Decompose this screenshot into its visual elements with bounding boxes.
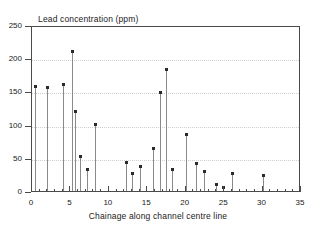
data-point: [126, 163, 127, 191]
x-axis-minor-tick: [123, 189, 124, 192]
chart-title: Lead concentration (ppm): [38, 14, 138, 24]
data-point-marker: [71, 50, 74, 53]
x-axis-tick-label: 20: [175, 198, 195, 207]
x-axis-minor-tick: [131, 189, 132, 192]
y-axis-tick: [25, 59, 31, 60]
data-point: [166, 70, 167, 192]
x-axis-tick-label: 30: [252, 198, 272, 207]
plot-area: [31, 26, 300, 192]
data-point-marker: [125, 161, 128, 164]
data-point: [172, 170, 173, 191]
y-axis-tick: [25, 26, 31, 27]
x-axis-minor-tick: [200, 189, 201, 192]
x-axis-minor-tick: [192, 189, 193, 192]
data-point: [186, 135, 187, 191]
data-point: [132, 174, 133, 191]
data-point: [196, 164, 197, 191]
data-point: [63, 85, 64, 191]
data-point-marker: [62, 83, 65, 86]
y-axis-tick: [25, 126, 31, 127]
data-point-marker: [79, 155, 82, 158]
data-point: [47, 88, 48, 191]
x-axis-minor-tick: [46, 189, 47, 192]
data-point-marker: [185, 133, 188, 136]
data-point: [232, 174, 233, 191]
y-axis-tick-label: 250: [9, 22, 22, 30]
data-point-marker: [74, 110, 77, 113]
data-point-marker: [46, 86, 49, 89]
data-point-marker: [262, 174, 265, 177]
x-axis-minor-tick: [246, 189, 247, 192]
x-axis-tick: [300, 186, 301, 192]
x-axis-minor-tick: [162, 189, 163, 192]
x-axis-tick-label: 10: [98, 198, 118, 207]
x-axis-tick: [146, 186, 147, 192]
data-point-marker: [195, 162, 198, 165]
data-point: [153, 149, 154, 191]
y-axis-tick: [25, 192, 31, 193]
data-point: [75, 112, 76, 191]
y-axis-tick-label: 100: [9, 122, 22, 130]
x-axis-tick: [69, 186, 70, 192]
x-axis-minor-tick: [139, 189, 140, 192]
x-axis-minor-tick: [100, 189, 101, 192]
data-point: [35, 87, 36, 191]
x-axis-minor-tick: [215, 189, 216, 192]
data-point: [140, 167, 141, 191]
y-axis-tick-label: 50: [13, 155, 22, 163]
data-point-marker: [203, 170, 206, 173]
data-point-marker: [86, 168, 89, 171]
x-axis-minor-tick: [231, 189, 232, 192]
y-axis-tick: [25, 92, 31, 93]
x-axis-minor-tick: [116, 189, 117, 192]
y-axis-tick-label: 0: [18, 188, 22, 196]
x-axis-minor-tick: [169, 189, 170, 192]
x-axis-minor-tick: [62, 189, 63, 192]
x-axis-minor-tick: [77, 189, 78, 192]
x-axis-minor-tick: [208, 189, 209, 192]
x-axis-tick: [31, 186, 32, 192]
x-axis-minor-tick: [154, 189, 155, 192]
x-axis-minor-tick: [177, 189, 178, 192]
x-axis-minor-tick: [239, 189, 240, 192]
x-axis-minor-tick: [292, 189, 293, 192]
data-point: [160, 93, 161, 191]
x-axis-tick-label: 5: [59, 198, 79, 207]
data-point-marker: [139, 165, 142, 168]
data-point: [95, 125, 96, 191]
x-axis-tick-label: 25: [213, 198, 233, 207]
x-axis-minor-tick: [85, 189, 86, 192]
x-axis-tick-label: 0: [21, 198, 41, 207]
data-point-marker: [159, 91, 162, 94]
x-axis-minor-tick: [277, 189, 278, 192]
data-point-marker: [152, 147, 155, 150]
data-point-marker: [171, 168, 174, 171]
data-point: [87, 170, 88, 191]
x-axis-minor-tick: [285, 189, 286, 192]
data-point-marker: [165, 68, 168, 71]
x-axis-tick: [262, 186, 263, 192]
data-point-marker: [131, 172, 134, 175]
x-axis-minor-tick: [39, 189, 40, 192]
x-axis-tick-label: 35: [290, 198, 310, 207]
data-point: [80, 157, 81, 191]
data-point-marker: [94, 123, 97, 126]
y-axis-tick-label: 150: [9, 88, 22, 96]
y-axis-tick-label: 200: [9, 55, 22, 63]
x-axis-minor-tick: [269, 189, 270, 192]
data-point: [263, 176, 264, 191]
x-axis-minor-tick: [54, 189, 55, 192]
chart-figure: Lead concentration (ppm) 050100150200250…: [0, 0, 316, 237]
x-axis-minor-tick: [254, 189, 255, 192]
y-axis-tick: [25, 159, 31, 160]
data-point-marker: [215, 183, 218, 186]
x-axis-tick-label: 15: [136, 198, 156, 207]
x-axis-tick: [223, 186, 224, 192]
data-point: [72, 52, 73, 191]
x-axis-label: Chainage along channel centre line: [0, 211, 316, 221]
x-axis-tick: [108, 186, 109, 192]
x-axis-minor-tick: [92, 189, 93, 192]
data-point-marker: [231, 172, 234, 175]
x-axis-tick: [185, 186, 186, 192]
data-point-marker: [34, 85, 37, 88]
